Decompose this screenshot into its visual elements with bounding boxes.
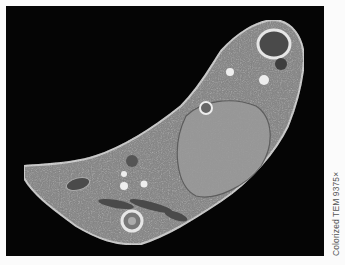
vacuole-top	[258, 30, 290, 58]
figure-caption: Colorized TEM 9375×	[331, 172, 341, 256]
micrograph-panel	[6, 6, 324, 256]
cell-micrograph	[6, 6, 324, 256]
nucleus	[177, 101, 270, 197]
